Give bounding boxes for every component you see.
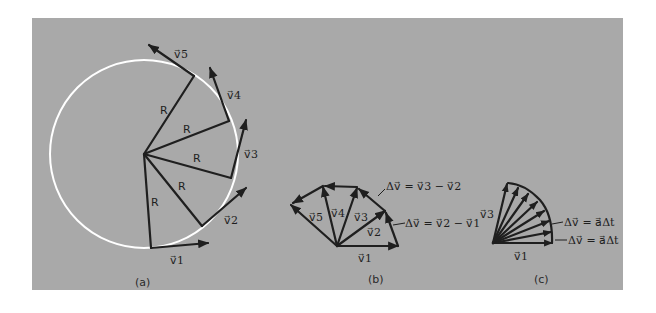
radius-label-1: R [151,196,159,209]
b-annotation-delta-v3-v2: Δv⃗ = v⃗3 − v⃗2 [386,180,461,193]
b-delta-v-3 [325,186,357,187]
c-leader-1 [552,222,563,224]
b-delta-v-4 [293,186,323,203]
vector-v4-label: v⃗4 [227,89,241,102]
b-v3-label: v⃗3 [354,211,368,224]
b-leader-2 [393,223,405,225]
b-delta-v-1 [386,213,398,246]
vector-v3-label: v⃗3 [244,148,258,161]
radius-label-3: R [193,152,201,165]
radius-1 [144,154,151,248]
vector-v1-label: v⃗1 [170,254,184,267]
b-v1-label: v⃗1 [358,252,372,265]
velocity-diagram: R R R R R v⃗1 v⃗2 v⃗3 v⃗4 v⃗5 (a) v⃗1 v⃗… [0,0,656,313]
b-annotation-delta-v2-v1: Δv⃗ = v⃗2 − v⃗1 [405,217,480,230]
radius-3 [144,154,231,178]
b-v2-label: v⃗2 [367,226,381,239]
c-annotation-1: Δv⃗ = a⃗Δt [564,216,615,229]
radius-label-5: R [160,104,168,117]
panel-a: R R R R R v⃗1 v⃗2 v⃗3 v⃗4 v⃗5 (a) [50,45,258,289]
panel-c: v⃗1 v⃗3 Δv⃗ = a⃗Δt Δv⃗ = a⃗Δt (c) [480,183,619,286]
radius-label-2: R [178,180,186,193]
panel-b: v⃗1 v⃗2 v⃗3 v⃗4 v⃗5 Δv⃗ = v⃗3 − v⃗2 Δv⃗ … [291,180,480,286]
c-v1-label: v⃗1 [514,250,528,263]
caption-b: (b) [368,273,384,286]
b-v4-label: v⃗4 [331,207,345,220]
vector-v5-label: v⃗5 [174,48,188,61]
caption-a: (a) [135,276,150,289]
radius-5 [144,76,194,154]
c-v3-label: v⃗3 [480,208,494,221]
b-leader-1 [378,189,385,196]
b-v5-label: v⃗5 [309,211,323,224]
caption-c: (c) [534,273,549,286]
radius-label-4: R [183,123,191,136]
c-annotation-2: Δv⃗ = a⃗Δt [568,234,619,247]
vector-v2-label: v⃗2 [224,214,238,227]
vector-v1-arrow [151,243,208,248]
